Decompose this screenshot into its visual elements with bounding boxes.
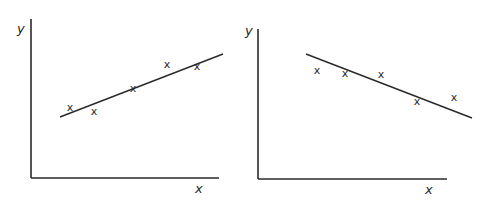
x-axis-label: x xyxy=(194,181,203,196)
data-point-marker: x xyxy=(164,58,171,71)
data-point-marker: x xyxy=(91,105,98,118)
data-point-marker: x xyxy=(414,95,421,108)
chart-negative: y x xxxxx xyxy=(244,23,472,197)
data-point-marker: x xyxy=(342,67,349,80)
data-point-marker: x xyxy=(194,60,201,73)
scatter-diagrams: y x xxxxx y x xxxxx xyxy=(0,0,490,204)
data-point-marker: x xyxy=(67,101,74,114)
y-axis-label: y xyxy=(244,23,253,38)
chart-positive: y x xxxxx xyxy=(16,19,223,196)
data-points: xxxxx xyxy=(67,58,201,118)
data-point-marker: x xyxy=(130,82,137,95)
data-point-marker: x xyxy=(314,64,321,77)
data-point-marker: x xyxy=(451,91,458,104)
x-axis-label: x xyxy=(424,182,433,197)
data-point-marker: x xyxy=(378,68,385,81)
y-axis-label: y xyxy=(16,21,25,36)
line-of-best-fit xyxy=(306,54,472,118)
data-points: xxxxx xyxy=(314,64,458,108)
